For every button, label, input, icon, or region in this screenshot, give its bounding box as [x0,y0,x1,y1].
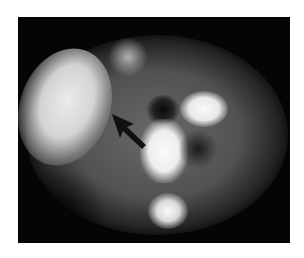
medical-scan-image [18,17,290,243]
arrow-icon [110,112,150,152]
upper-uptake-spot [108,37,148,77]
right-photopenic-spot [178,129,218,169]
right-hot-spot [180,91,228,127]
lower-hot-spot [148,193,188,229]
